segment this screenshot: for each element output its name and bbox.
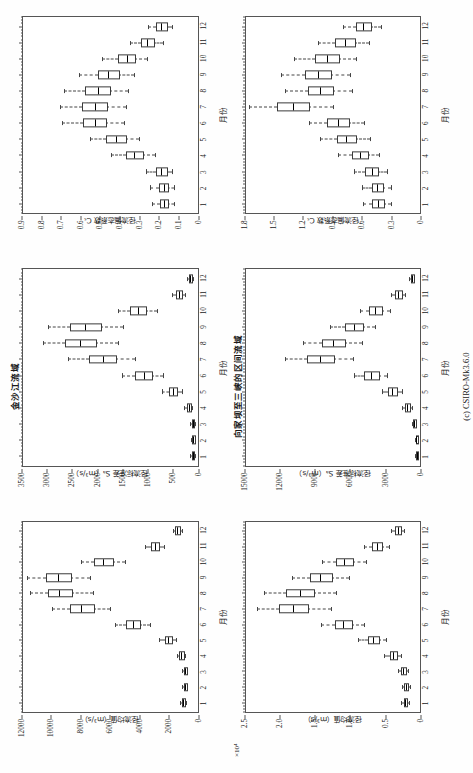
median-line [155,543,156,550]
y-tick-mark [421,469,422,473]
median-line [412,276,413,283]
y-tick-mark [139,715,140,719]
x-tick-mark-minor [243,333,246,334]
boxplot-month-4 [23,653,198,660]
y-tick-label: 15000 [241,473,249,491]
y-tick-mark [139,216,140,220]
boxplot-month-6 [246,621,421,628]
y-axis-title-1: 径流标准差 Sₐ（m³/s） [73,469,148,480]
x-tick-mark-minor [21,430,24,431]
boxplot-month-2 [246,684,421,691]
x-tick-mark-minor [21,615,24,616]
x-tick-label: 6 [200,623,208,627]
boxplot-month-9 [23,575,198,582]
x-tick-mark-minor [21,68,24,69]
x-tick-label: 7 [200,105,208,109]
whisker-upper [90,139,106,140]
y-tick-mark [159,216,160,220]
boxplot-month-3 [246,668,421,675]
boxplot-month-6 [246,120,421,127]
x-tick-mark-minor [21,213,24,214]
whisker-lower [308,107,333,108]
boxplot-month-12 [23,276,198,283]
panel-xiangjiaba-runoff: ×10⁴ 00.51.01.52.02.5 径流均值（m³/s） 1234567… [229,513,452,765]
boxplot-month-9 [23,324,198,331]
cap-lower [409,701,410,705]
whisker-lower [125,139,140,140]
x-tick-label: 6 [422,623,430,627]
x-tick-mark-minor [21,148,24,149]
cap-upper [152,202,153,206]
x-tick-label: 10 [200,307,208,314]
whisker-upper [285,91,307,92]
cap-upper [115,623,116,627]
y-tick-mark [80,216,81,220]
y-tick-label: 1.8 [241,220,249,229]
cap-upper [159,638,160,642]
cap-lower [387,373,388,377]
x-tick-label: 3 [200,670,208,674]
cap-lower [331,607,332,611]
x-tick-mark-minor [243,696,246,697]
x-axis-1: 123456789101112 [200,268,214,466]
boxplot-month-4 [23,152,198,159]
boxplot-month-4 [246,653,421,660]
x-tick-mark-minor [243,81,246,82]
x-tick-mark-minor [243,36,246,37]
median-line [360,152,361,159]
x-tick-mark-minor [243,430,246,431]
plot-area-5: 00.30.60.91.21.51.8 径流偏态系数 Cₛ 1234567891… [245,16,422,214]
median-line [318,72,319,79]
x-tick-label: 5 [200,639,208,643]
median-line [320,88,321,95]
x-tick-label: 9 [200,576,208,580]
whisker-upper [343,26,356,27]
median-line [416,437,417,444]
cap-lower [386,638,387,642]
panel-title-jinshajiang: 金沙江流域 [8,363,20,410]
median-line [98,88,99,95]
boxplot-month-5 [23,637,198,644]
x-tick-mark-minor [21,571,24,572]
median-line [133,621,134,628]
cap-upper [318,41,319,45]
x-tick-label: 1 [200,203,208,207]
whisker-upper [257,609,279,610]
cap-lower [192,406,193,410]
x-tick-mark-minor [243,285,246,286]
axes-frame-2 [22,16,199,214]
median-line [193,437,194,444]
boxplot-month-2 [23,684,198,691]
cap-lower [185,654,186,658]
x-tick-mark-minor [243,49,246,50]
boxplot-month-1 [23,699,198,706]
cap-upper [81,560,82,564]
cap-lower [150,623,151,627]
whisker-upper [354,171,365,172]
x-tick-mark-minor [21,449,24,450]
boxplot-month-1 [23,200,198,207]
cap-upper [358,638,359,642]
y-tick-mark [22,216,23,220]
x-axis-title-5: 月份 [439,107,450,123]
axes-frame-5 [245,16,422,214]
x-tick-label: 10 [422,307,430,314]
x-tick-label: 6 [422,122,430,126]
whisker-upper [64,91,85,92]
cap-lower [93,591,94,595]
cap-upper [148,25,149,29]
whisker-upper [111,155,126,156]
y-tick-label: 0.2 [155,220,163,229]
boxplot-month-8 [246,590,421,597]
whisker-upper [318,42,335,43]
x-tick-label: 11 [200,39,208,46]
boxplot-month-3 [23,168,198,175]
cap-lower [369,41,370,45]
whisker-lower [333,359,353,360]
cap-upper [146,169,147,173]
cap-upper [309,121,310,125]
boxplot-month-12 [23,528,198,535]
boxplot-month-10 [246,56,421,63]
whisker-upper [43,343,65,344]
x-tick-mark-minor [243,52,246,53]
